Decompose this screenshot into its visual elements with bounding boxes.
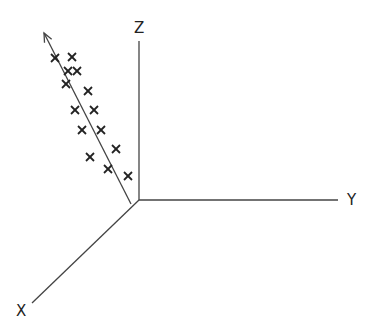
data-marker (112, 145, 120, 153)
data-marker (90, 106, 98, 114)
y-axis-label: Y (347, 193, 356, 208)
vector-line (44, 33, 131, 204)
data-marker (73, 67, 81, 75)
x-axis-line (32, 200, 139, 303)
data-marker (86, 153, 94, 161)
data-marker (84, 87, 92, 95)
data-marker (64, 67, 72, 75)
data-marker (68, 53, 76, 61)
data-marker (71, 106, 79, 114)
data-marker (124, 172, 132, 180)
z-axis-label: Z (134, 21, 144, 36)
data-marker (62, 80, 70, 88)
axes-plot (0, 0, 379, 333)
data-marker (78, 126, 86, 134)
diagram-canvas: Z Y X (0, 0, 379, 333)
data-marker (97, 126, 105, 134)
data-marker (104, 165, 112, 173)
x-axis-label: X (16, 304, 26, 319)
